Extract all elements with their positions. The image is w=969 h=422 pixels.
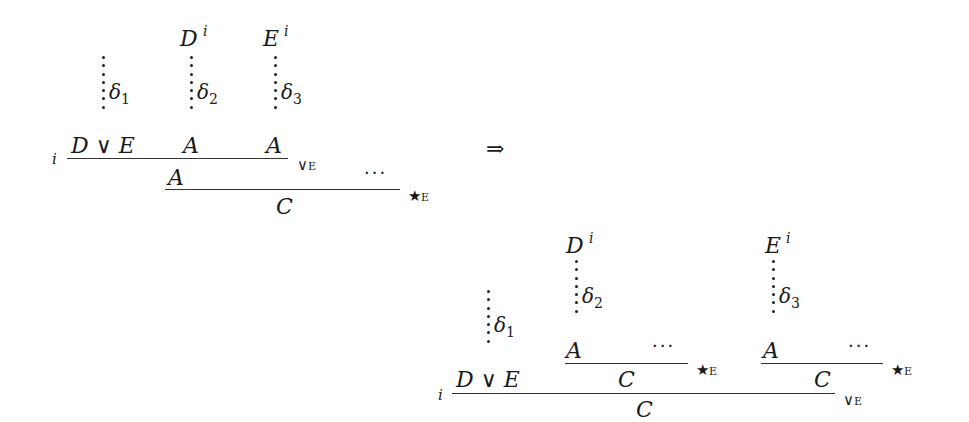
- derivation-delta1: δ1: [109, 82, 130, 102]
- inner2-conclusion-C: C: [814, 369, 831, 391]
- hypothesis-D: D: [180, 28, 198, 50]
- derivation-delta2: δ2: [197, 82, 218, 102]
- discharge-index: i: [52, 152, 57, 167]
- rule-label-starE: ★E: [696, 363, 718, 378]
- rule-label-starE: ★E: [891, 363, 913, 378]
- derivation-delta3: δ3: [779, 286, 800, 306]
- rule-label-orE: ∨E: [297, 158, 317, 173]
- inner1-premise-A: A: [566, 340, 582, 362]
- inner2-premise-A: A: [763, 340, 779, 362]
- derivation-dots: [274, 56, 277, 114]
- premise-disjunction: D ∨ E: [456, 369, 520, 391]
- inference-line-starE: [565, 363, 688, 364]
- discharge-index: i: [438, 388, 443, 403]
- inner1-ellipsis: ···: [652, 337, 675, 355]
- inner1-conclusion-C: C: [618, 369, 635, 391]
- derivation-delta1: δ1: [494, 315, 515, 335]
- inference-line-starE: [761, 363, 883, 364]
- discharge-label: i: [786, 231, 790, 245]
- conclusion-A: A: [168, 167, 184, 189]
- rule-label-starE: ★E: [408, 189, 430, 204]
- premise-A: A: [266, 135, 282, 157]
- derivation-dots: [575, 260, 578, 318]
- derivation-dots: [190, 56, 193, 114]
- hypothesis-D: D: [566, 235, 584, 257]
- conclusion-C: C: [636, 399, 653, 421]
- ellipsis: ···: [364, 164, 387, 182]
- derivation-dots: [102, 56, 105, 114]
- inference-line-orE: [452, 393, 835, 394]
- transformation-arrow: ⇒: [486, 138, 504, 160]
- inference-line-starE: [165, 189, 400, 190]
- conclusion-C: C: [276, 196, 293, 218]
- premise-A: A: [183, 135, 199, 157]
- hypothesis-E: E: [765, 235, 781, 257]
- discharge-label: i: [284, 24, 288, 38]
- derivation-dots: [487, 290, 490, 348]
- premise-disjunction: D ∨ E: [71, 135, 135, 157]
- discharge-label: i: [589, 231, 593, 245]
- inference-line-orE: [67, 158, 288, 159]
- rule-label-orE: ∨E: [843, 393, 863, 408]
- derivation-dots: [772, 260, 775, 318]
- inner2-ellipsis: ···: [848, 337, 871, 355]
- derivation-delta2: δ2: [582, 286, 603, 306]
- discharge-label: i: [203, 24, 207, 38]
- hypothesis-E: E: [263, 28, 279, 50]
- derivation-delta3: δ3: [281, 82, 302, 102]
